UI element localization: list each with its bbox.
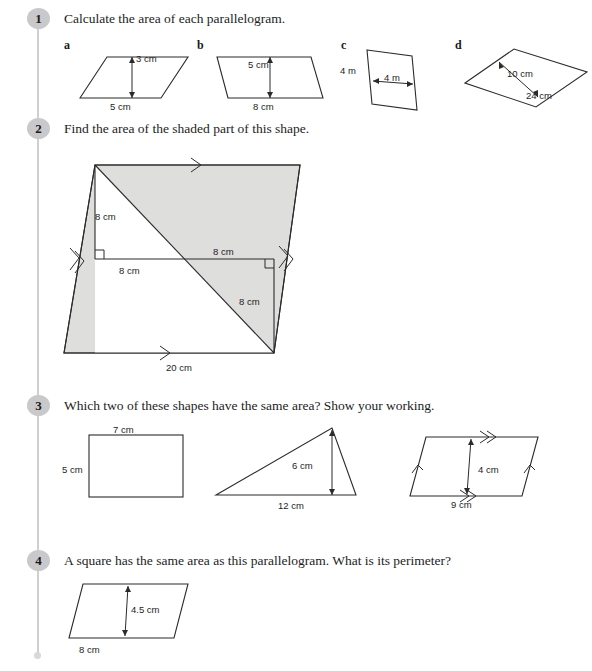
dim-label-3-para-base: 9 cm xyxy=(451,499,472,510)
dim-label-2-upper-mid-horizontal: 8 cm xyxy=(213,246,234,257)
dim-label-2-upper-left-vertical: 8 cm xyxy=(95,211,116,222)
dim-label-1b-height: 5 cm xyxy=(248,59,269,70)
timeline-end-dot xyxy=(34,652,41,659)
dim-label-1c-side: 4 m xyxy=(340,65,356,76)
dim-label-1b-base: 8 cm xyxy=(253,101,274,112)
question-text-1: Calculate the area of each parallelogram… xyxy=(64,11,285,27)
question-badge-4[interactable]: 4 xyxy=(27,550,50,571)
question-badge-1[interactable]: 1 xyxy=(27,8,50,29)
shape-1b-parallelogram xyxy=(210,44,330,106)
question-text-4: A square has the same area as this paral… xyxy=(64,553,451,569)
shape-3-triangle xyxy=(210,424,370,506)
part-label-1a: a xyxy=(64,38,70,53)
shape-2-shaded-figure xyxy=(55,155,325,370)
dim-label-1a-height: 3 cm xyxy=(136,53,157,64)
dim-label-1d-height: 10 cm xyxy=(507,68,533,79)
dim-label-2-lower-right-vertical: 8 cm xyxy=(239,296,260,307)
dim-label-1a-base: 5 cm xyxy=(110,101,131,112)
dim-label-4-height: 4.5 cm xyxy=(131,604,160,615)
question-text-2: Find the area of the shaded part of this… xyxy=(64,121,309,137)
dim-label-2-mid-left-horizontal: 8 cm xyxy=(119,265,140,276)
question-badge-2[interactable]: 2 xyxy=(27,118,50,139)
worksheet-page: 1 Calculate the area of each parallelogr… xyxy=(0,0,592,671)
shape-1a-parallelogram xyxy=(75,44,195,106)
dim-label-3-rect-top: 7 cm xyxy=(113,424,134,435)
dim-label-3-triangle-height: 6 cm xyxy=(292,460,313,471)
question-badge-3[interactable]: 3 xyxy=(27,395,50,416)
dim-label-2-base: 20 cm xyxy=(166,362,192,373)
part-label-1c: c xyxy=(341,38,346,53)
shape-3-rectangle xyxy=(88,434,194,506)
part-label-1d: d xyxy=(455,38,462,53)
question-text-3: Which two of these shapes have the same … xyxy=(64,398,434,414)
shape-1c-parallelogram xyxy=(355,44,465,116)
part-label-1b: b xyxy=(197,38,204,53)
dim-label-1c-width: 4 m xyxy=(384,72,400,83)
dim-label-4-base: 8 cm xyxy=(79,644,100,655)
shape-1d-parallelogram xyxy=(462,44,592,116)
dim-label-3-rect-left: 5 cm xyxy=(62,464,83,475)
dim-label-1d-base: 24 cm xyxy=(526,90,552,101)
dim-label-3-para-height: 4 cm xyxy=(478,464,499,475)
dim-label-3-triangle-base: 12 cm xyxy=(278,500,304,511)
